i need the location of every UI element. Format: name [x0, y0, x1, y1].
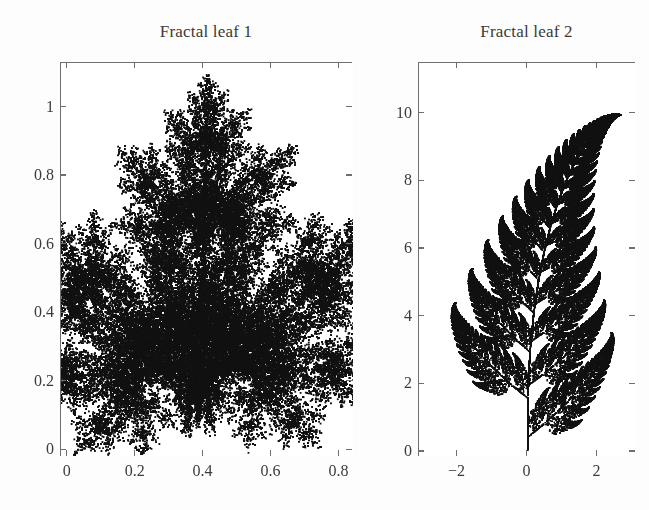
x-tick-mark — [134, 450, 135, 456]
y-tick-label: 2 — [368, 374, 412, 392]
x-tick-label: 0.4 — [193, 462, 213, 480]
y-tick-label: 0.4 — [10, 303, 54, 321]
y-tick-mark-right — [346, 312, 352, 313]
y-tick-label: 0.2 — [10, 372, 54, 390]
y-tick-label: 0 — [10, 440, 54, 458]
y-tick-mark-right — [346, 243, 352, 244]
figure-page: Fractal leaf 1 00.20.40.60.81 00.20.40.6… — [0, 0, 649, 510]
x-tick-mark — [270, 450, 271, 456]
y-tick-mark-right — [629, 315, 635, 316]
x-tick-mark — [66, 450, 67, 456]
y-tick-mark-right — [629, 112, 635, 113]
y-tick-label: 0.8 — [10, 166, 54, 184]
y-tick-mark — [418, 112, 424, 113]
x-tick-mark — [202, 450, 203, 456]
y-tick-mark — [418, 450, 424, 451]
y-tick-label: 6 — [368, 239, 412, 257]
y-tick-mark-right — [629, 450, 635, 451]
x-tick-mark — [456, 450, 457, 456]
y-tick-mark-right — [629, 247, 635, 248]
x-tick-label: 0.6 — [261, 462, 281, 480]
fractal-plot-canvas-1 — [61, 63, 353, 457]
y-tick-label: 10 — [368, 104, 412, 122]
y-tick-mark — [418, 247, 424, 248]
plot-title-1: Fractal leaf 1 — [60, 22, 352, 42]
y-tick-label: 4 — [368, 307, 412, 325]
plot-title-2: Fractal leaf 2 — [418, 22, 635, 42]
y-tick-mark — [60, 312, 66, 313]
y-tick-mark-right — [346, 449, 352, 450]
x-tick-label: 0 — [523, 462, 531, 480]
x-tick-mark-top — [66, 62, 67, 68]
y-tick-label: 0.6 — [10, 235, 54, 253]
x-tick-mark-top — [596, 62, 597, 68]
y-tick-mark — [418, 180, 424, 181]
y-tick-mark — [60, 174, 66, 175]
y-tick-mark-right — [346, 174, 352, 175]
x-tick-mark — [526, 450, 527, 456]
axes-box-1 — [60, 62, 352, 456]
x-tick-label: 0 — [63, 462, 71, 480]
y-tick-mark-right — [346, 380, 352, 381]
x-tick-mark — [596, 450, 597, 456]
y-tick-mark-right — [346, 106, 352, 107]
x-tick-mark-top — [338, 62, 339, 68]
fractal-plot-canvas-2 — [419, 63, 636, 457]
x-tick-mark-top — [526, 62, 527, 68]
x-tick-mark-top — [270, 62, 271, 68]
y-tick-mark — [418, 315, 424, 316]
x-tick-mark-top — [134, 62, 135, 68]
y-tick-label: 8 — [368, 171, 412, 189]
y-tick-label: 1 — [10, 98, 54, 116]
x-tick-label: 2 — [593, 462, 601, 480]
y-tick-mark — [60, 243, 66, 244]
y-tick-mark — [60, 106, 66, 107]
x-tick-label: 0.8 — [328, 462, 348, 480]
y-tick-mark — [418, 383, 424, 384]
y-tick-mark-right — [629, 383, 635, 384]
y-tick-mark — [60, 449, 66, 450]
y-tick-mark — [60, 380, 66, 381]
y-tick-mark-right — [629, 180, 635, 181]
x-tick-mark-top — [456, 62, 457, 68]
x-tick-label: −2 — [448, 462, 465, 480]
x-tick-label: 0.2 — [125, 462, 145, 480]
x-tick-mark — [338, 450, 339, 456]
y-tick-label: 0 — [368, 442, 412, 460]
axes-box-2 — [418, 62, 635, 456]
x-tick-mark-top — [202, 62, 203, 68]
